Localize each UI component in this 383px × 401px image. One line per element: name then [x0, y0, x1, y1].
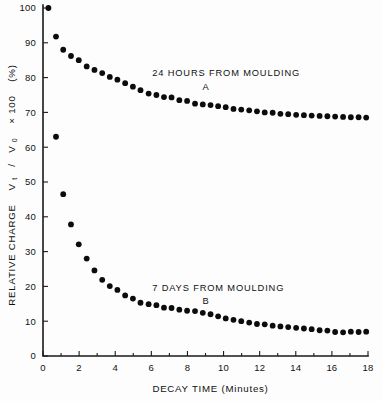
series-b-letter: B	[202, 296, 208, 306]
data-point	[231, 106, 237, 112]
x-tick-label: 16	[326, 362, 337, 373]
x-axis-tick-labels: 024681012141618	[40, 362, 373, 373]
x-tick-label: 12	[254, 362, 265, 373]
data-point	[363, 329, 369, 335]
y-tick-label: 60	[25, 142, 36, 153]
data-point	[324, 113, 330, 119]
x-tick-label: 18	[363, 362, 374, 373]
data-point	[340, 329, 346, 335]
y-tick-label: 10	[25, 316, 36, 327]
data-point	[208, 102, 214, 108]
data-point	[278, 111, 284, 117]
data-point	[332, 114, 338, 120]
x-tick-label: 4	[112, 362, 117, 373]
y-tick-label: 30	[25, 246, 36, 257]
data-point	[285, 111, 291, 117]
data-point	[208, 311, 214, 317]
data-point	[60, 47, 66, 53]
data-point	[332, 329, 338, 335]
y-title-sub-0: 0	[11, 138, 18, 143]
data-point	[169, 95, 175, 101]
data-point	[254, 321, 260, 327]
x-tick-label: 8	[185, 362, 190, 373]
y-axis-tick-labels: 0102030405060708090100	[20, 2, 36, 361]
data-point	[114, 77, 120, 83]
data-point	[176, 307, 182, 313]
data-point	[68, 222, 74, 228]
data-point	[76, 57, 82, 63]
data-point	[138, 87, 144, 93]
data-point	[278, 324, 284, 330]
y-tick-label: 20	[25, 281, 36, 292]
data-point	[60, 191, 66, 197]
data-point	[348, 329, 354, 335]
x-axis-title: DECAY TIME (Minutes)	[152, 383, 268, 394]
y-axis-title: RELATIVE CHARGE V t / V 0 × 100 (%)	[6, 64, 18, 305]
y-tick-label: 70	[25, 107, 36, 118]
data-point	[309, 113, 315, 119]
data-point	[99, 70, 105, 76]
data-point	[169, 305, 175, 311]
series-b-datapoints	[53, 134, 369, 335]
data-point	[53, 134, 59, 140]
data-point	[348, 114, 354, 120]
data-point	[246, 107, 252, 113]
series-b-annotation: 7 DAYS FROM MOULDING	[152, 283, 284, 293]
data-point	[223, 104, 229, 110]
data-point	[317, 327, 323, 333]
data-point	[215, 103, 221, 109]
data-point	[153, 92, 159, 98]
data-point	[84, 64, 90, 70]
y-title-prefix: RELATIVE CHARGE	[6, 204, 17, 306]
x-tick-label: 0	[40, 362, 45, 373]
data-point	[324, 328, 330, 334]
y-tick-label: 80	[25, 72, 36, 83]
y-title-v0: V	[6, 146, 17, 153]
data-point	[301, 326, 307, 332]
data-point	[262, 110, 268, 116]
x-tick-label: 10	[218, 362, 229, 373]
y-tick-label: 90	[25, 37, 36, 48]
data-point	[161, 305, 167, 311]
data-point	[200, 101, 206, 107]
data-point	[270, 323, 276, 329]
data-point	[153, 302, 159, 308]
data-point	[92, 67, 98, 73]
y-tick-label: 100	[20, 2, 36, 13]
data-point	[76, 241, 82, 247]
data-point	[262, 321, 268, 327]
data-point	[53, 34, 59, 40]
series-a-datapoints	[46, 5, 370, 120]
data-point	[184, 308, 190, 314]
data-point	[246, 320, 252, 326]
y-tick-label: 50	[25, 176, 36, 187]
data-point	[200, 310, 206, 316]
svg-text:RELATIVE CHARGE: RELATIVE CHARGE V t / V 0 × 100 (%)	[6, 64, 18, 305]
data-point	[184, 98, 190, 104]
decay-curve-plot: 024681012141618 0102030405060708090100 2…	[0, 0, 383, 401]
x-tick-label: 6	[149, 362, 154, 373]
data-point	[340, 114, 346, 120]
x-tick-label: 14	[290, 362, 301, 373]
series-a-letter: A	[202, 82, 209, 92]
data-point	[285, 324, 291, 330]
y-tick-label: 0	[31, 350, 36, 361]
data-point	[130, 296, 136, 302]
y-tick-label: 40	[25, 211, 36, 222]
y-title-sub-t: t	[11, 177, 18, 180]
data-point	[114, 287, 120, 293]
data-point	[138, 300, 144, 306]
x-tick-label: 2	[76, 362, 81, 373]
y-title-slash: /	[6, 163, 17, 166]
data-point	[238, 318, 244, 324]
data-point	[215, 313, 221, 319]
data-point	[84, 256, 90, 262]
data-point	[293, 325, 299, 331]
series-a-annotation: 24 HOURS FROM MOULDING	[152, 68, 300, 78]
data-point	[254, 108, 260, 114]
data-point	[46, 5, 52, 11]
data-point	[92, 267, 98, 273]
data-point	[231, 317, 237, 323]
data-point	[301, 112, 307, 118]
data-point	[270, 110, 276, 116]
